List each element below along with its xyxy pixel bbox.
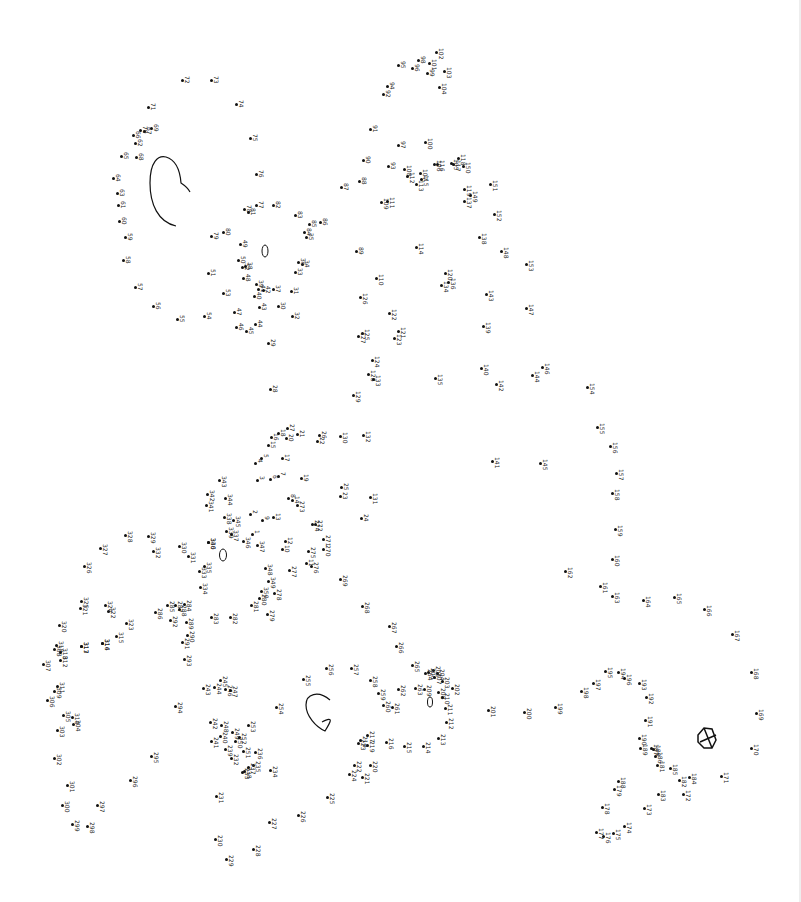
dot-label: 293 (186, 655, 192, 666)
dot-label: 325 (83, 597, 89, 608)
dot-label: 193 (641, 679, 647, 690)
dot-label: 345 (235, 516, 241, 527)
dot-label: 199 (557, 703, 563, 714)
dot-label: 347 (259, 541, 265, 552)
dot-label: 92 (385, 90, 391, 98)
dot-label: 247 (232, 686, 238, 697)
dot-to-dot-canvas: 1234567891011121314151617181920212223242… (0, 0, 801, 902)
dot-label: 184 (691, 773, 697, 784)
dot-label: 81 (250, 208, 256, 216)
dot-label: 65 (123, 152, 129, 160)
dot-label: 296 (132, 776, 138, 787)
dot-label: 230 (217, 835, 223, 846)
dot-label: 154 (589, 383, 595, 394)
dot-label: 123 (396, 334, 402, 345)
dot-label: 74 (238, 100, 244, 108)
dot-label: 332 (155, 547, 161, 558)
dot-label: 241 (213, 737, 219, 748)
dot-label: 33 (297, 268, 303, 276)
pre-drawn-shapes (0, 0, 801, 902)
dot-label: 273 (299, 501, 305, 512)
dot-label: 229 (228, 855, 234, 866)
dot-label: 310 (74, 713, 80, 724)
dot-label: 174 (626, 822, 632, 833)
dot-label: 24 (363, 514, 369, 522)
flower-shape (698, 728, 716, 748)
dot-label: 93 (390, 162, 396, 170)
eye-oval-lower (220, 549, 227, 561)
dot-label: 269 (342, 575, 348, 586)
dot-label: 160 (614, 555, 620, 566)
dot-label: 239 (227, 745, 233, 756)
dot-label: 36 (300, 258, 306, 266)
dot-label: 94 (389, 82, 395, 90)
dot-label: 52 (244, 263, 250, 271)
dot-label: 162 (567, 567, 573, 578)
dot-label: 1 (254, 530, 260, 534)
dot-label: 29 (270, 339, 276, 347)
dot-label: 227 (271, 818, 277, 829)
dot-label: 329 (150, 532, 156, 543)
dot-label: 142 (498, 380, 504, 391)
dot-label: 243 (205, 684, 211, 695)
dot-label: 12 (287, 537, 293, 545)
dot-label: 268 (364, 602, 370, 613)
dot-label: 286 (157, 608, 163, 619)
dot-label: 319 (58, 641, 64, 652)
dot-label: 112 (409, 172, 415, 183)
dot-label: 173 (646, 804, 652, 815)
dot-label: 61 (120, 201, 126, 209)
dot-label: 168 (753, 668, 759, 679)
dot-label: 23 (342, 492, 348, 500)
dot-label: 149 (472, 191, 478, 202)
dot-label: 26 (321, 431, 327, 439)
dot-label: 236 (257, 748, 263, 759)
dot-label: 80 (225, 228, 231, 236)
dot-label: 45 (248, 327, 254, 335)
dot-label: 110 (378, 274, 384, 285)
dot-label: 271 (325, 535, 331, 546)
dot-label: 115 (423, 175, 429, 186)
dot-label: 9 (264, 516, 270, 520)
dot-label: 158 (614, 489, 620, 500)
dot-label: 82 (275, 201, 281, 209)
dot-label: 259 (380, 689, 386, 700)
eye-oval-upper (262, 245, 268, 257)
dot-label: 274 (314, 520, 320, 531)
dot-label: 349 (270, 577, 276, 588)
dot-label: 327 (102, 544, 108, 555)
dot-label: 303 (59, 726, 65, 737)
dot-label: 159 (617, 525, 623, 536)
dot-label: 145 (542, 459, 548, 470)
dot-label: 264 (427, 669, 433, 680)
dot-label: 129 (355, 391, 361, 402)
mouth-shape (306, 694, 330, 731)
dot-label: 330 (181, 542, 187, 553)
dot-label: 4 (257, 459, 263, 463)
dot-label: 324 (107, 601, 113, 612)
dot-label: 215 (406, 742, 412, 753)
dot-label: 344 (227, 494, 233, 505)
dot-label: 132 (365, 431, 371, 442)
dot-label: 46 (238, 323, 244, 331)
dot-label: 48 (245, 274, 251, 282)
dot-label: 285 (169, 601, 175, 612)
dot-label: 200 (526, 708, 532, 719)
dot-label: 298 (89, 822, 95, 833)
dot-label: 234 (272, 766, 278, 777)
dot-label: 192 (648, 693, 654, 704)
dot-label: 111 (389, 197, 395, 208)
dot-label: 13 (275, 513, 281, 521)
dot-label: 207 (436, 673, 442, 684)
dot-label: 258 (372, 676, 378, 687)
dot-label: 213 (440, 734, 446, 745)
dot-label: 189 (642, 744, 648, 755)
dot-label: 116 (439, 160, 445, 171)
dot-label: 87 (343, 183, 349, 191)
dot-label: 69 (153, 124, 159, 132)
dot-label: 226 (300, 811, 306, 822)
dot-label: 43 (261, 303, 267, 311)
dot-label: 195 (607, 667, 613, 678)
dot-label: 317 (83, 642, 89, 653)
dot-label: 163 (614, 592, 620, 603)
